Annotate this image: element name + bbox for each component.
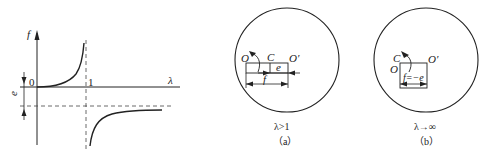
diagram-canvas: f λ 0 1 e <box>0 0 491 155</box>
frequency-ratio-graph: f λ 0 1 e <box>7 28 180 150</box>
panel-a: O C O′ e f λ>1 （a） <box>235 8 339 147</box>
offset-arrow-down-icon <box>22 77 27 84</box>
label-Oprime-a: O′ <box>289 52 300 64</box>
label-Oprime-b: O′ <box>428 53 439 65</box>
disk-outline-a <box>235 8 339 112</box>
f-arrow-right-icon <box>281 82 288 87</box>
panel-b: C O O′ f=−e λ→∞ （b） <box>374 8 478 147</box>
label-O-b: O <box>390 63 398 75</box>
x-axis-label: λ <box>167 74 173 86</box>
curve-above-resonance <box>90 110 162 146</box>
y-axis-label: f <box>27 28 32 40</box>
label-O-a: O <box>241 52 249 64</box>
caption-b: （b） <box>414 136 439 147</box>
e-arrow-right-icon <box>288 71 295 76</box>
curve-below-resonance <box>37 43 84 87</box>
condition-b: λ→∞ <box>414 121 436 132</box>
disk-outline-b <box>374 8 478 112</box>
offset-label: e <box>7 91 19 96</box>
asymptote-value-label: 1 <box>88 76 94 88</box>
f-arrow-left-icon <box>246 82 253 87</box>
origin-label: 0 <box>29 76 35 88</box>
offset-arrow-up-icon <box>22 109 27 116</box>
offset-box-a <box>246 63 288 73</box>
label-f-a: f <box>263 73 268 85</box>
label-f-equals-minus-e: f=−e <box>403 72 424 83</box>
caption-a: （a） <box>273 136 297 147</box>
label-C-a: C <box>267 51 275 63</box>
rotation-arrow-a-icon <box>249 51 256 57</box>
y-axis-arrow-icon <box>35 30 40 40</box>
label-e-a: e <box>276 61 281 73</box>
condition-a: λ>1 <box>274 121 290 132</box>
